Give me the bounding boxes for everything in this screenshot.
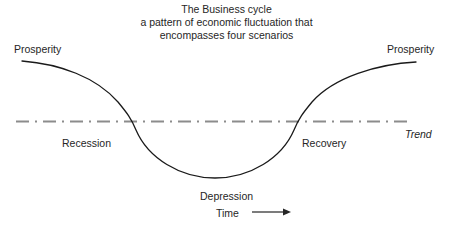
label-trend: Trend xyxy=(405,128,432,141)
label-recovery: Recovery xyxy=(302,137,346,150)
business-cycle-curve xyxy=(22,61,416,178)
business-cycle-figure: The Business cycle a pattern of economic… xyxy=(0,0,453,227)
label-prosperity-right: Prosperity xyxy=(387,43,434,56)
label-prosperity-left: Prosperity xyxy=(14,43,61,56)
label-time-axis: Time xyxy=(216,207,239,220)
label-depression: Depression xyxy=(200,190,253,203)
time-arrow xyxy=(252,209,291,216)
label-recession: Recession xyxy=(62,137,111,150)
